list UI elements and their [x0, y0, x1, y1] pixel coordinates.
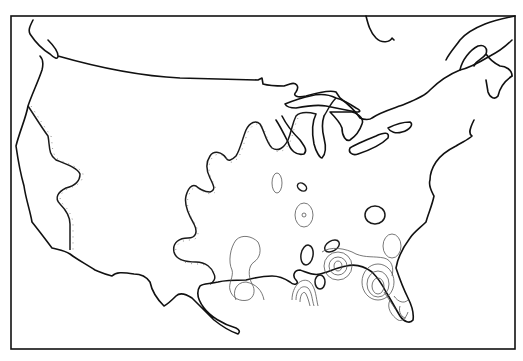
closed-contour-3-center	[302, 213, 306, 217]
closed-contour-2	[296, 181, 308, 192]
pacific-contour	[28, 106, 80, 250]
lake-ontario	[388, 122, 412, 133]
delta-arch-2	[296, 287, 314, 306]
closed-contour-1	[272, 173, 282, 193]
map-container	[0, 0, 523, 361]
lake-michigan	[313, 114, 326, 158]
central-plains-hachure	[176, 118, 298, 276]
lake-superior	[285, 95, 360, 112]
central-plains-contour	[174, 98, 336, 284]
ring-inner	[334, 261, 342, 271]
lake-huron	[330, 112, 363, 140]
us-contour-map	[0, 0, 523, 361]
closed-contour-8	[383, 234, 401, 258]
gulf-contour-1	[234, 282, 264, 300]
delta-arch-3	[300, 292, 310, 306]
closed-contour-3	[295, 203, 313, 227]
florida-contour-4	[384, 292, 396, 310]
closed-contour-7	[315, 275, 325, 289]
florida-contour-3	[394, 296, 408, 302]
national-outline	[16, 20, 512, 334]
map-frame	[11, 16, 515, 349]
nfl-ring-middle	[367, 271, 389, 297]
northeast-coast	[366, 16, 515, 76]
closed-contour-4	[365, 206, 385, 224]
pacific-contour-hachure	[31, 106, 83, 250]
south-central-contour	[230, 236, 260, 300]
closed-contour-5	[299, 244, 314, 266]
